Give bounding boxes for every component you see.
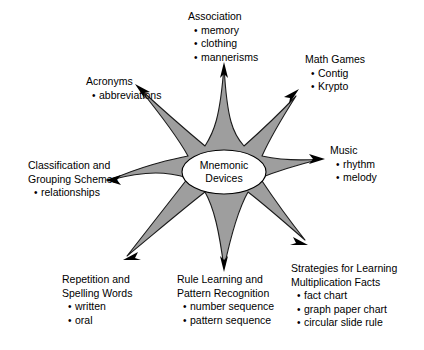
node-classification-title-line1: Classification and [28, 159, 118, 173]
node-association: Association memory clothing mannerisms [188, 10, 258, 64]
node-math-games-items: Contig Krypto [305, 67, 365, 94]
node-math-games-title: Math Games [305, 53, 365, 67]
list-item: relationships [35, 186, 118, 200]
node-music-items: rhythm melody [330, 158, 377, 185]
center-label: Mnemonic Devices [188, 159, 260, 184]
node-repetition-title-line1: Repetition and [62, 273, 132, 287]
node-strategies-title-line1: Strategies for Learning [291, 262, 397, 276]
node-classification: Classification and Grouping Schemes rela… [28, 159, 118, 200]
node-repetition-items: written oral [62, 300, 132, 327]
arrowhead-down-left [123, 252, 141, 260]
node-rule-learning-items: number sequence pattern sequence [177, 300, 274, 327]
arrowhead-down-right [290, 237, 308, 245]
node-classification-items: relationships [28, 186, 118, 200]
node-rule-learning-title-line1: Rule Learning and [177, 273, 274, 287]
list-item: clothing [195, 37, 258, 51]
node-strategies-title-line2: Multiplication Facts [291, 276, 397, 290]
node-association-items: memory clothing mannerisms [188, 24, 258, 65]
list-item: Contig [312, 67, 365, 81]
list-item: graph paper chart [298, 303, 397, 317]
list-item: fact chart [298, 289, 397, 303]
list-item: melody [337, 171, 377, 185]
arrowhead-right [309, 154, 325, 164]
list-item: mannerisms [195, 51, 258, 65]
center-label-line2: Devices [188, 172, 260, 185]
list-item: number sequence [184, 300, 274, 314]
node-math-games: Math Games Contig Krypto [305, 53, 365, 94]
node-association-title: Association [188, 10, 258, 24]
node-rule-learning-title-line2: Pattern Recognition [177, 287, 274, 301]
list-item: rhythm [337, 158, 377, 172]
list-item: circular slide rule [298, 316, 397, 330]
list-item: Krypto [312, 80, 365, 94]
node-acronyms-items: abbreviations [86, 89, 161, 103]
node-strategies-items: fact chart graph paper chart circular sl… [291, 289, 397, 330]
concept-map-diagram: Mnemonic Devices Association memory clot… [0, 0, 424, 350]
center-label-line1: Mnemonic [188, 159, 260, 172]
node-acronyms-title: Acronyms [86, 75, 161, 89]
node-repetition: Repetition and Spelling Words written or… [62, 273, 132, 327]
list-item: written [69, 300, 132, 314]
list-item: abbreviations [93, 89, 161, 103]
node-classification-title-line2: Grouping Schemes [28, 173, 118, 187]
list-item: oral [69, 314, 132, 328]
node-acronyms: Acronyms abbreviations [86, 75, 161, 102]
node-music: Music rhythm melody [330, 144, 377, 185]
node-rule-learning: Rule Learning and Pattern Recognition nu… [177, 273, 274, 327]
node-repetition-title-line2: Spelling Words [62, 287, 132, 301]
list-item: memory [195, 24, 258, 38]
node-strategies: Strategies for Learning Multiplication F… [291, 262, 397, 330]
node-music-title: Music [330, 144, 377, 158]
list-item: pattern sequence [184, 314, 274, 328]
